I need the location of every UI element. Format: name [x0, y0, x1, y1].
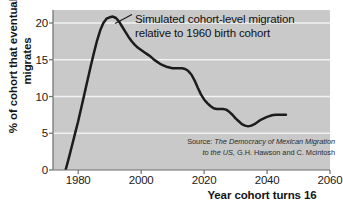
x-axis-tick-labels: 1980 2000 2020 2040 2060 — [0, 174, 343, 190]
x-tick-label: 2020 — [181, 174, 227, 186]
x-tick-label: 2000 — [118, 174, 164, 186]
source-line-1: Source: The Democracy of Mexican Migrati… — [160, 137, 335, 148]
y-tick-label: 15 — [26, 54, 48, 66]
annotation-line-1: Simulated cohort-level migration — [135, 12, 335, 26]
y-tick-label: 20 — [26, 17, 48, 29]
x-tick-label: 2060 — [307, 174, 343, 186]
source-authors: G.H. Hawson and C. Mcintosh — [237, 148, 335, 157]
source-line-2: to the US, G.H. Hawson and C. Mcintosh — [160, 148, 335, 159]
x-tick-label: 2040 — [244, 174, 290, 186]
source-title: The Democracy of Mexican Migration — [214, 137, 335, 146]
source-label: Source: — [187, 137, 212, 146]
source-note: Source: The Democracy of Mexican Migrati… — [160, 137, 335, 158]
annotation-line-2: relative to 1960 birth cohort — [135, 26, 335, 40]
y-tick-label: 5 — [26, 127, 48, 139]
y-tick-label: 10 — [26, 91, 48, 103]
x-axis-title: Year cohort turns 16 — [183, 189, 341, 201]
x-tick-label: 1980 — [55, 174, 101, 186]
source-title-continued: to the US, — [203, 148, 235, 157]
curve-annotation: Simulated cohort-level migration relativ… — [135, 12, 335, 41]
chart-figure: % of cohort that eventually migrates 0 5… — [0, 0, 343, 209]
